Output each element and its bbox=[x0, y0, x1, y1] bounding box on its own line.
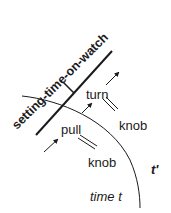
label-time-t: time t bbox=[90, 189, 123, 204]
label-knob-lower: knob bbox=[88, 155, 116, 170]
event-label: setting-time-on-watch bbox=[9, 30, 111, 132]
label-pull: pull bbox=[61, 122, 81, 137]
label-t-prime: t' bbox=[151, 162, 159, 177]
diagram-canvas: setting-time-on-watch turn pull knob kno… bbox=[0, 0, 171, 213]
label-turn: turn bbox=[86, 87, 108, 102]
time-curve bbox=[22, 96, 140, 208]
arrow-lower bbox=[44, 139, 58, 152]
label-knob-upper: knob bbox=[119, 118, 147, 133]
link-pull-knob bbox=[78, 135, 97, 149]
arrow-upper bbox=[106, 72, 119, 85]
arrow-middle bbox=[82, 103, 92, 113]
diagram-svg: setting-time-on-watch turn pull knob kno… bbox=[0, 0, 171, 213]
